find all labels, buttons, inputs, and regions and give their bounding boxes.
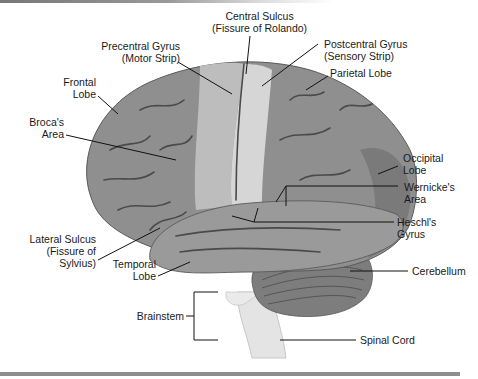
- label-parietal-lobe: Parietal Lobe: [330, 67, 392, 79]
- label-spinal-cord: Spinal Cord: [360, 334, 415, 346]
- label-lateral-sulcus: Lateral Sulcus (Fissure of Sylvius): [18, 233, 96, 269]
- label-central-sulcus: Central Sulcus (Fissure of Rolando): [212, 10, 307, 34]
- label-occipital-lobe: Occipital Lobe: [403, 152, 443, 176]
- bottom-rule: [0, 372, 460, 376]
- label-brocas-area: Broca's Area: [24, 116, 64, 140]
- label-frontal-lobe: Frontal Lobe: [50, 76, 96, 100]
- label-wernickes-area: Wernicke's Area: [404, 181, 455, 205]
- label-postcentral-gyrus: Postcentral Gyrus (Sensory Strip): [324, 38, 407, 62]
- label-temporal-lobe: Temporal Lobe: [108, 258, 156, 282]
- label-precentral-gyrus: Precentral Gyrus (Motor Strip): [96, 40, 180, 64]
- label-cerebellum: Cerebellum: [412, 265, 466, 277]
- label-heschls-gyrus: Heschl's Gyrus: [397, 216, 436, 240]
- label-brainstem: Brainstem: [126, 310, 184, 322]
